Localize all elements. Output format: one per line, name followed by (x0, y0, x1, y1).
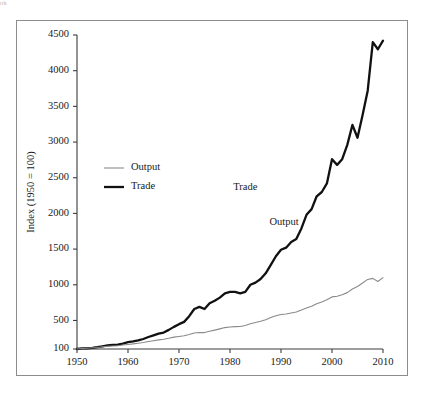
x-tick-label: 1960 (118, 356, 139, 367)
y-tick-label: 1000 (48, 278, 69, 289)
y-axis-title-group: Index (1950 = 100) (25, 151, 37, 233)
x-tick-label: 1990 (271, 356, 292, 367)
data-series-group (77, 41, 383, 349)
y-tick-label: 100 (53, 342, 69, 353)
inline-annotations-group: TradeOutput (233, 181, 298, 227)
legend-label-output: Output (131, 161, 160, 172)
legend-label-trade: Trade (131, 180, 155, 191)
y-tick-label: 2000 (48, 207, 69, 218)
y-tick-label: 1500 (48, 242, 69, 253)
x-axis-ticks-group: 1950196019701980199020002010 (67, 349, 394, 367)
line-chart-plot: 10050010001500200025003000350040004500 1… (0, 0, 425, 398)
axis-lines-group (77, 35, 383, 349)
x-tick-label: 2000 (322, 356, 343, 367)
axis-lines (77, 35, 383, 349)
y-tick-label: 500 (53, 314, 69, 325)
y-tick-label: 4000 (48, 64, 69, 75)
series-line-output (77, 278, 383, 349)
y-tick-label: 4500 (48, 28, 69, 39)
y-tick-label: 2500 (48, 171, 69, 182)
y-axis-title: Index (1950 = 100) (25, 151, 37, 233)
y-tick-label: 3000 (48, 135, 69, 146)
x-tick-label: 2010 (373, 356, 394, 367)
x-tick-label: 1950 (67, 356, 88, 367)
y-tick-label: 3500 (48, 100, 69, 111)
y-axis-ticks-group: 10050010001500200025003000350040004500 (48, 28, 77, 353)
legend-group: OutputTrade (104, 161, 160, 191)
x-tick-label: 1980 (220, 356, 241, 367)
annotation-label-trade: Trade (233, 181, 257, 192)
series-line-trade (77, 41, 383, 349)
x-tick-label: 1970 (169, 356, 190, 367)
annotation-label-output: Output (269, 216, 298, 227)
chart-figure: nk 1005001000150020002500300035004000450… (0, 0, 425, 398)
